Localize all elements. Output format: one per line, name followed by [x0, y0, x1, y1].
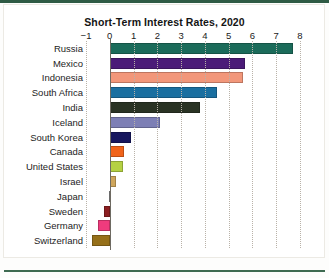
x-tick-label: −1 [81, 30, 92, 41]
gridline-1 [134, 41, 135, 248]
category-label: Sweden [49, 206, 83, 217]
bar [110, 102, 200, 113]
zero-axis-line [110, 39, 111, 250]
bar [110, 58, 246, 69]
bar [110, 161, 123, 172]
category-label: South Korea [30, 132, 83, 143]
bar [92, 235, 110, 246]
top-rule [0, 0, 329, 3]
category-label: Switzerland [34, 235, 83, 246]
category-label: Canada [50, 146, 83, 157]
x-tick-label: 5 [226, 30, 231, 41]
gridline-3 [181, 41, 182, 248]
x-tick-label: 6 [250, 30, 255, 41]
category-label: Israel [60, 176, 83, 187]
y-axis-category-labels: RussiaMexicoIndonesiaSouth AfricaIndiaIc… [7, 41, 83, 248]
category-label: South Africa [32, 87, 83, 98]
gridline-2 [157, 41, 158, 248]
x-tick-label: 8 [297, 30, 302, 41]
category-label: Japan [57, 191, 83, 202]
bar-series [86, 41, 300, 248]
category-label: Mexico [53, 58, 83, 69]
bar [110, 72, 243, 83]
plot-area [86, 41, 300, 248]
gridline-4 [205, 41, 206, 248]
x-tick-label: 1 [131, 30, 136, 41]
category-label: India [62, 102, 83, 113]
chart-page: Short-Term Interest Rates, 2020 −1012345… [0, 0, 329, 278]
category-label: Iceland [52, 117, 83, 128]
bar [110, 132, 131, 143]
bar [110, 117, 160, 128]
bar [110, 87, 217, 98]
gridline-5 [229, 41, 230, 248]
category-label: Indonesia [42, 72, 83, 83]
gridline-7 [276, 41, 277, 248]
chart-title: Short-Term Interest Rates, 2020 [3, 16, 326, 28]
category-label: Russia [54, 43, 83, 54]
x-tick-label: 3 [178, 30, 183, 41]
bar [110, 146, 124, 157]
x-tick-label: 2 [155, 30, 160, 41]
category-label: United States [26, 161, 83, 172]
bar-chart: Short-Term Interest Rates, 2020 −1012345… [3, 4, 326, 258]
gridline-6 [252, 41, 253, 248]
bottom-rule [4, 270, 325, 272]
x-tick-label: 7 [274, 30, 279, 41]
category-label: Germany [44, 220, 83, 231]
bar [98, 220, 110, 231]
x-tick-label: 4 [202, 30, 207, 41]
bar [110, 43, 293, 54]
gridline--1 [86, 41, 87, 248]
gridline-8 [300, 41, 301, 248]
